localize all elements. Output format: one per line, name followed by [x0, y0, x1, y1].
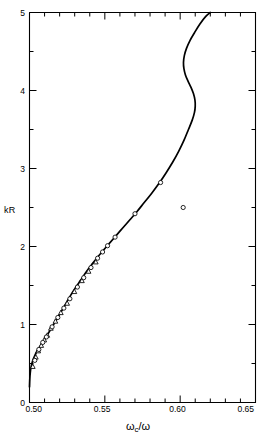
plot-canvas	[0, 0, 276, 445]
axis-ticks	[30, 13, 256, 403]
figure-dispersion-plot: kR ωc/ω 0.500.550.600.65 012345	[0, 0, 276, 445]
y-tick-label: 1	[11, 320, 25, 330]
y-tick-label: 2	[11, 242, 25, 252]
plot-frame	[30, 13, 256, 403]
y-tick-label: 3	[11, 164, 25, 174]
y-tick-label: 0	[11, 398, 25, 408]
x-tick-label: 0.60	[169, 404, 186, 414]
x-tick-label: 0.55	[94, 404, 111, 414]
x-axis-label: ωc/ω	[0, 420, 276, 434]
theory-curve	[30, 13, 211, 387]
y-tick-label: 4	[11, 86, 25, 96]
x-axis-label-omega2: ω	[142, 420, 151, 432]
data-markers	[30, 180, 185, 368]
x-tick-label: 0.65	[238, 404, 255, 414]
y-tick-label: 5	[11, 8, 25, 18]
y-axis-label: kR	[4, 205, 16, 215]
x-tick-label: 0.50	[26, 404, 43, 414]
